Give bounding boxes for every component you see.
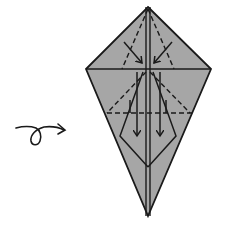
origami-diagram: Kite base, turn over; fold edges to cent… [0,0,235,230]
kite-shape [86,7,211,216]
turn-over-arrow-icon [16,124,65,145]
